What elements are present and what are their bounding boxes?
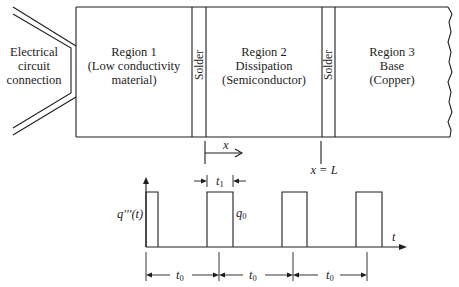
time-axis-arrow-icon [399, 244, 407, 250]
region3-label: Region 3 Base (Copper) [369, 45, 414, 87]
pulse-width-label: t1 [216, 174, 224, 189]
time-axis-label: t [392, 230, 396, 244]
arrowhead-right-icon [213, 273, 219, 278]
electrical-connection-label: Electrical circuit connection [7, 45, 63, 87]
x-origin-marker: x [205, 138, 242, 164]
arrowhead-right-icon [201, 179, 207, 184]
region3-desc-line1: Base [380, 59, 405, 73]
electrical-label-line1: Electrical [10, 45, 58, 59]
electrical-label-line3: connection [7, 73, 63, 87]
pulse-width-dimension: t1 [194, 174, 246, 189]
region1-desc-line2: material) [111, 73, 156, 87]
pulse-width-label-sub: 1 [219, 179, 223, 189]
period-dimensions: t0 t0 t0 [146, 252, 367, 283]
lead-outer-lower [13, 97, 76, 135]
electrical-label-line2: circuit [18, 59, 50, 73]
region2-label: Region 2 Dissipation (Semiconductor) [222, 45, 306, 87]
arrowhead-left-icon [233, 179, 239, 184]
x-label: x [222, 138, 229, 152]
q-axis-arrow-icon [143, 177, 149, 184]
x-equals-L-label: x = L [309, 163, 337, 177]
block-break-edge [448, 7, 452, 137]
amplitude-label-sub: 0 [242, 211, 246, 221]
heat-dissipation-diagram: Electrical circuit connection Region 1 (… [0, 0, 459, 287]
pulse-4 [356, 192, 382, 247]
amplitude-label: q0 [236, 206, 247, 221]
x-equals-L-marker: x = L [309, 141, 337, 177]
pulse-1 [146, 192, 158, 247]
solder2-label: Solder [322, 50, 334, 80]
pulse-chart: q′′′(t) q0 t t1 t0 [117, 174, 407, 283]
period3-label-sub: 0 [329, 273, 333, 283]
period2-label: t0 [249, 268, 257, 283]
pulse-2 [207, 192, 233, 247]
solder1-label: Solder [193, 50, 205, 80]
q-axis-label: q′′′(t) [117, 207, 143, 221]
arrowhead-right-icon [361, 273, 367, 278]
region1-title: Region 1 [111, 45, 156, 59]
region3-desc-line2: (Copper) [369, 73, 414, 87]
region3-title: Region 3 [369, 45, 414, 59]
arrowhead-right-icon [287, 273, 293, 278]
region2-desc-line2: (Semiconductor) [222, 73, 306, 87]
period1-label: t0 [176, 268, 184, 283]
region2-desc-line1: Dissipation [236, 59, 294, 73]
period1-label-sub: 0 [179, 273, 183, 283]
period3-label: t0 [326, 268, 334, 283]
lead-outer-upper [13, 7, 76, 46]
period2-label-sub: 0 [252, 273, 256, 283]
region1-label: Region 1 (Low conductivity material) [88, 45, 181, 87]
pulse-3 [282, 192, 307, 247]
region1-desc-line1: (Low conductivity [88, 59, 181, 73]
region2-title: Region 2 [241, 45, 286, 59]
